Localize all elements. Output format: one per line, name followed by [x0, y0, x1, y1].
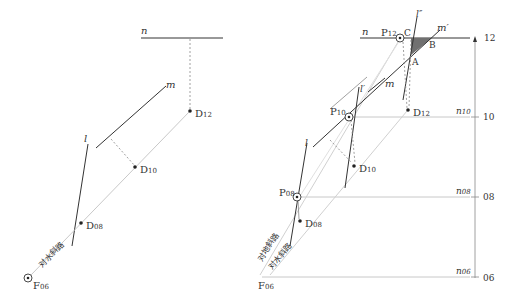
right-diagram: n n10 n08 n06 12 10 08 06 m′ m l″ [255, 9, 495, 291]
left-diagram: n m l D12 D10 D08 F06 对水斜路 [24, 25, 223, 291]
label-m-right: m [385, 78, 394, 89]
point-d10 [133, 165, 137, 169]
label-m: m [166, 79, 175, 90]
tick-label-10: 10 [483, 112, 495, 122]
tick-label-06: 06 [483, 273, 495, 283]
point-f06 [27, 277, 30, 280]
label-l-right: l [305, 138, 308, 148]
slope-label: 对水斜路 [36, 239, 65, 269]
line-m [96, 86, 166, 148]
point-d12-right [406, 108, 410, 112]
projection-m-d10 [111, 139, 135, 166]
ground-slope-line [260, 42, 398, 275]
label-n08: n08 [456, 186, 471, 196]
axis-arrow-icon [473, 36, 477, 42]
tick-label-12: 12 [484, 33, 495, 43]
label-n06: n06 [456, 266, 471, 276]
projection-c-d12 [409, 40, 411, 108]
label-l-prime: l′ [360, 84, 365, 94]
point-d12 [188, 109, 192, 113]
point-p08 [296, 196, 299, 199]
label-n-right: n [362, 26, 368, 37]
point-p12 [399, 37, 402, 40]
label-d10-right: D10 [359, 163, 376, 174]
label-f06-right: F06 [258, 280, 274, 291]
label-d08-right: D08 [305, 218, 322, 229]
label-p12: P12 [381, 27, 397, 38]
label-b: B [429, 40, 436, 50]
label-d12-right: D12 [413, 107, 430, 118]
point-d10-right [352, 164, 356, 168]
label-c: C [404, 28, 411, 38]
label-d10: D10 [140, 164, 157, 175]
label-n: n [141, 25, 147, 36]
label-p08: P08 [279, 187, 295, 198]
projection-p08-d08 [298, 200, 299, 219]
label-l: l [84, 133, 87, 144]
label-a: A [411, 57, 419, 67]
label-d08: D08 [86, 220, 103, 231]
label-n10: n10 [456, 106, 471, 116]
line-l-prime [345, 87, 359, 188]
label-d12: D12 [195, 108, 212, 119]
line-m-prime [313, 30, 440, 147]
point-d08-right [298, 219, 302, 223]
label-f06: F06 [33, 280, 49, 291]
diagram-canvas: n m l D12 D10 D08 F06 对水斜路 n n10 n [0, 0, 516, 307]
point-p10 [348, 116, 351, 119]
point-d08 [79, 221, 83, 225]
label-p10: P10 [330, 106, 346, 117]
label-l-dprime: l″ [416, 9, 423, 19]
line-m-right [368, 78, 385, 92]
label-m-prime: m′ [437, 22, 449, 33]
tick-label-08: 08 [483, 192, 495, 202]
